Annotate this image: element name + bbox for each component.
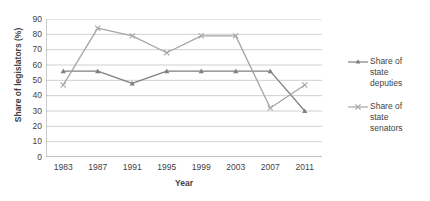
y-axis-tick-label: 50: [20, 76, 42, 85]
legend-label-deputies-line3: deputies: [370, 78, 402, 88]
series-layer: [61, 26, 308, 113]
x-axis-tick-label: 2011: [285, 162, 325, 172]
y-axis-tick-label: 40: [20, 91, 42, 100]
y-axis-tick-label: 80: [20, 30, 42, 39]
plot-svg: [46, 19, 322, 157]
y-axis-tick-label: 60: [20, 61, 42, 70]
y-axis-tick-label: 20: [20, 122, 42, 131]
legend-label-deputies-line2: state: [370, 67, 388, 77]
line-chart: Share of legislators (%) 010203040506070…: [0, 0, 430, 201]
legend-label-deputies: Share ofstatedeputies: [370, 56, 430, 89]
legend-entry-senators: Share ofstatesenators: [348, 101, 430, 134]
gridlines: [46, 19, 322, 157]
y-axis-tick-label: 10: [20, 137, 42, 146]
y-axis-tick-label: 30: [20, 107, 42, 116]
y-axis-tick-label: 70: [20, 45, 42, 54]
legend-label-senators-line2: state: [370, 112, 388, 122]
legend-marker-senators-icon: [348, 103, 368, 111]
axis-lines: [46, 19, 322, 157]
x-axis-tick-labels: 19831987199119951999200320072011: [46, 162, 322, 176]
y-axis-tick-labels: 0102030405060708090: [20, 14, 42, 158]
legend-label-senators-line3: senators: [370, 123, 403, 133]
plot-area: [46, 19, 322, 157]
legend-label-senators-line1: Share of: [370, 101, 402, 111]
y-axis-tick-label: 90: [20, 15, 42, 24]
y-axis-tick-label: 0: [20, 153, 42, 162]
x-axis-title: Year: [46, 178, 322, 188]
chart-legend: Share ofstatedeputies Share ofstatesenat…: [348, 56, 430, 146]
legend-label-senators: Share ofstatesenators: [370, 101, 430, 134]
legend-label-deputies-line1: Share of: [370, 56, 402, 66]
legend-entry-deputies: Share ofstatedeputies: [348, 56, 430, 89]
legend-marker-deputies-icon: [348, 58, 368, 66]
